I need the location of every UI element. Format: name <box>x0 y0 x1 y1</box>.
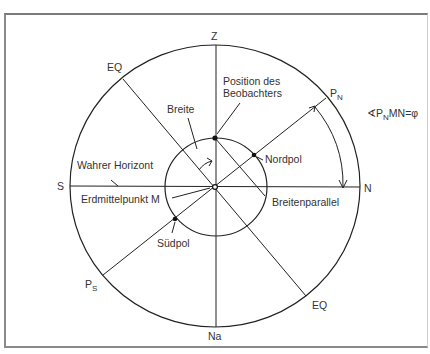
label-south-pole: Südpol <box>157 237 190 249</box>
label-earth-center: Erdmittelpunkt M <box>81 193 160 205</box>
label-equator-bottom: EQ <box>312 299 327 311</box>
label-celestial-north-pole: PN <box>330 87 343 102</box>
parallel-of-latitude-line <box>215 138 265 196</box>
horizon-leader <box>111 180 118 186</box>
label-equator-top: EQ <box>107 61 122 73</box>
celestial-sphere-diagram: Z Na S N EQ EQ PN PS Position des Beobac… <box>0 0 430 354</box>
label-north-pole: Nordpol <box>265 153 302 165</box>
north-pole-point <box>252 153 257 158</box>
label-nadir: Na <box>208 330 222 342</box>
latitude-angle-arc <box>315 107 343 187</box>
label-latitude: Breite <box>167 103 195 115</box>
label-observer-line2: Beobachters <box>223 87 282 99</box>
label-north: N <box>364 182 372 194</box>
label-angle-formula: ∢PNMN=φ <box>367 107 418 122</box>
earth-center-leader <box>172 188 210 198</box>
south-pole-leader <box>172 222 175 233</box>
latitude-inner-arc <box>199 161 212 170</box>
observer-leader <box>217 103 240 134</box>
label-zenith: Z <box>211 30 218 42</box>
label-south: S <box>57 180 64 192</box>
label-true-horizon: Wahrer Horizont <box>77 159 153 171</box>
latitude-leader <box>188 118 197 149</box>
label-parallel-of-latitude: Breitenparallel <box>272 196 339 208</box>
observer-point <box>212 135 217 140</box>
label-observer-line1: Position des <box>223 75 280 87</box>
earth-center-point <box>213 185 218 190</box>
label-celestial-south-pole: PS <box>85 278 97 293</box>
south-pole-point <box>173 217 178 222</box>
